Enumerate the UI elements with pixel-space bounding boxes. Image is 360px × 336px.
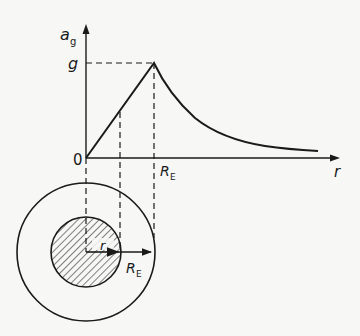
origin-label: 0: [73, 151, 83, 169]
earth-radius-label: R: [126, 260, 136, 276]
x-tick-RE: R: [160, 163, 170, 179]
earth-radius-label-subscript: E: [136, 269, 142, 279]
y-axis-label-subscript: g: [70, 36, 76, 47]
x-axis-arrow-icon: [330, 155, 340, 162]
x-tick-RE-subscript: E: [170, 172, 176, 182]
y-tick-g: g: [68, 54, 78, 73]
y-axis: [83, 24, 90, 158]
x-axis: [86, 155, 340, 162]
y-axis-label: a: [60, 25, 70, 44]
x-axis-label: r: [334, 163, 341, 181]
acceleration-curve: [86, 63, 318, 158]
y-axis-arrow-icon: [83, 24, 90, 34]
gravity-diagram: a g r g 0 R E r R E: [0, 0, 360, 336]
